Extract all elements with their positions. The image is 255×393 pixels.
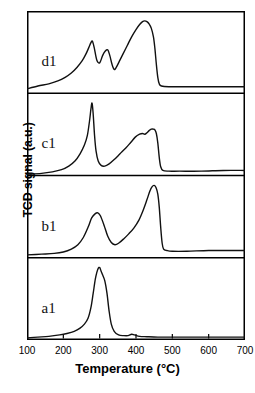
curve-label-c1: c1	[42, 135, 56, 151]
x-tick-label: 500	[164, 345, 181, 356]
curve-label-d1: d1	[42, 53, 57, 69]
curve-label-b1: b1	[42, 218, 57, 234]
x-tick-label: 700	[237, 345, 254, 356]
x-tick-label: 300	[91, 345, 108, 356]
x-axis-tick-labels: 100200300400500600700	[27, 345, 245, 359]
curve-c1	[27, 103, 245, 174]
curve-label-a1: a1	[42, 300, 56, 316]
curve-d1	[27, 21, 245, 89]
plot-area: a1b1c1d1	[27, 11, 245, 340]
x-tick-label: 100	[19, 345, 36, 356]
x-axis-label: Temperature (°C)	[0, 361, 255, 376]
x-tick-label: 200	[55, 345, 72, 356]
x-tick-label: 400	[128, 345, 145, 356]
x-tick-label: 600	[200, 345, 217, 356]
curve-a1	[27, 267, 245, 337]
tpd-figure: TCD signal (a.u.) a1b1c1d1 1002003004005…	[0, 0, 255, 393]
curve-b1	[27, 185, 245, 254]
plot-svg: a1b1c1d1	[27, 11, 245, 340]
